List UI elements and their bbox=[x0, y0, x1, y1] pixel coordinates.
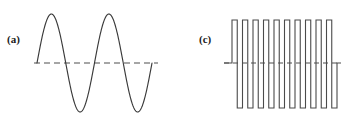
sine-wave-plot bbox=[0, 0, 177, 132]
panel-sine-wave: (a) bbox=[0, 0, 177, 132]
square-wave-plot bbox=[177, 0, 354, 132]
waveform-figure: (a) (c) bbox=[0, 0, 354, 132]
square-waveform-path bbox=[224, 20, 341, 108]
panel-square-wave: (c) bbox=[177, 0, 354, 132]
